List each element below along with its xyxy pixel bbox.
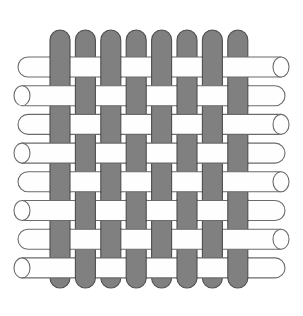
weft-open-end-left — [14, 143, 30, 163]
weave-figure — [0, 0, 303, 316]
weft-open-end-right — [273, 172, 289, 192]
weft-open-end-right — [273, 229, 289, 249]
weave-diagram-svg — [0, 0, 303, 316]
weft-open-end-left — [14, 201, 30, 221]
weft-open-end-left — [14, 86, 30, 106]
weft-open-end-right — [273, 114, 289, 134]
weft-open-end-left — [14, 258, 30, 278]
weft-open-end-right — [273, 57, 289, 77]
